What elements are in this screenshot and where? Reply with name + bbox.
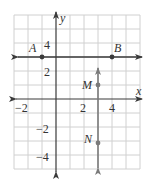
- point-a: [40, 55, 45, 60]
- point-b: [110, 55, 115, 60]
- x-axis-label: x: [135, 84, 142, 98]
- y-tick-label: 4: [44, 38, 50, 52]
- point-n-label: N: [83, 132, 93, 146]
- coordinate-plane: x y −2 2 4 4 2 −2 −4 A B M N: [0, 0, 149, 179]
- x-tick-label: 4: [109, 101, 115, 115]
- point-a-label: A: [28, 41, 37, 55]
- y-tick-label: −2: [36, 122, 49, 136]
- x-tick-label: 2: [80, 101, 86, 115]
- point-m: [96, 83, 101, 88]
- x-tick-label: −2: [15, 101, 28, 115]
- grid: [14, 15, 140, 169]
- y-tick-label: −4: [36, 150, 49, 164]
- point-b-label: B: [114, 41, 122, 55]
- point-m-label: M: [81, 78, 93, 92]
- y-tick-label: 2: [44, 65, 50, 79]
- point-n: [96, 141, 101, 146]
- y-axis-label: y: [59, 11, 66, 25]
